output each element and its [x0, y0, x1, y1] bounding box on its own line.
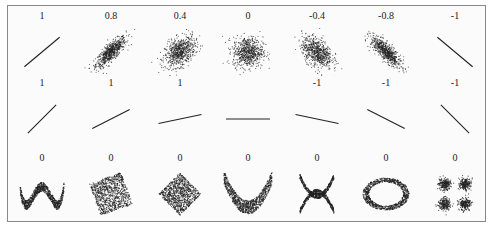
correlation-label: 1 — [146, 77, 214, 89]
scatter-panel: 0 — [214, 10, 282, 80]
correlation-label: 0 — [8, 152, 76, 164]
scatter-panel: 0.8 — [77, 10, 145, 80]
scatter-plot — [356, 166, 416, 218]
correlation-label: 1 — [8, 10, 76, 22]
correlation-label: 0 — [146, 152, 214, 164]
scatter-panel: -1 — [283, 77, 351, 147]
scatter-panel: -0.8 — [352, 10, 420, 80]
scatter-plot — [81, 166, 141, 218]
scatter-plot — [356, 24, 416, 76]
scatter-panel: 0 — [214, 152, 282, 222]
correlation-label: 0.4 — [146, 10, 214, 22]
scatter-plot — [150, 166, 210, 218]
scatter-panel: 1 — [146, 77, 214, 147]
correlation-label: -1 — [421, 77, 489, 89]
scatter-plot — [218, 24, 278, 76]
scatter-plot — [81, 24, 141, 76]
scatter-panel: -1 — [421, 10, 489, 80]
scatter-plot — [150, 24, 210, 76]
scatter-panel: 0 — [77, 152, 145, 222]
figure-frame: 10.80.40-0.4-0.8-1111-1-1-10000000 — [7, 5, 486, 222]
scatter-panel: 1 — [8, 10, 76, 80]
scatter-panel: 0 — [146, 152, 214, 222]
scatter-panel: 0 — [283, 152, 351, 222]
correlation-label: -1 — [352, 77, 420, 89]
scatter-panel: 0 — [8, 152, 76, 222]
scatter-plot — [287, 24, 347, 76]
correlation-label: 0 — [214, 152, 282, 164]
scatter-panel: 1 — [8, 77, 76, 147]
correlation-label: -1 — [283, 77, 351, 89]
scatter-panel: 0 — [352, 152, 420, 222]
scatter-panel: -0.4 — [283, 10, 351, 80]
correlation-label: 0 — [421, 152, 489, 164]
scatter-plot — [425, 24, 485, 76]
scatter-plot — [150, 91, 210, 143]
scatter-panel — [214, 77, 282, 147]
correlation-label: 1 — [8, 77, 76, 89]
correlation-label: -0.4 — [283, 10, 351, 22]
scatter-plot — [287, 91, 347, 143]
scatter-panel: 1 — [77, 77, 145, 147]
correlation-label: 0 — [283, 152, 351, 164]
correlation-label: -1 — [421, 10, 489, 22]
correlation-label: 0 — [352, 152, 420, 164]
scatter-panel: 0.4 — [146, 10, 214, 80]
scatter-plot — [12, 24, 72, 76]
scatter-plot — [218, 166, 278, 218]
scatter-panel: -1 — [352, 77, 420, 147]
correlation-label: 0 — [77, 152, 145, 164]
correlation-label: 1 — [77, 77, 145, 89]
scatter-plot — [12, 166, 72, 218]
scatter-panel: -1 — [421, 77, 489, 147]
scatter-panel: 0 — [421, 152, 489, 222]
scatter-plot — [12, 91, 72, 143]
correlation-label: -0.8 — [352, 10, 420, 22]
scatter-plot — [287, 166, 347, 218]
scatter-plot — [218, 91, 278, 143]
scatter-plot — [425, 166, 485, 218]
scatter-plot — [425, 91, 485, 143]
scatter-plot — [81, 91, 141, 143]
correlation-label: 0 — [214, 10, 282, 22]
correlation-label: 0.8 — [77, 10, 145, 22]
scatter-plot — [356, 91, 416, 143]
